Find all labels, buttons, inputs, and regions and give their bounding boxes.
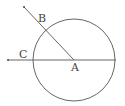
label-c: C (19, 48, 27, 61)
ray-ab (24, 7, 74, 60)
label-a: A (70, 61, 80, 74)
ray-b-endpoint (23, 6, 25, 8)
label-b: B (38, 12, 46, 25)
ray-c-endpoint (7, 59, 9, 61)
geometry-diagram: B C A (0, 0, 125, 106)
